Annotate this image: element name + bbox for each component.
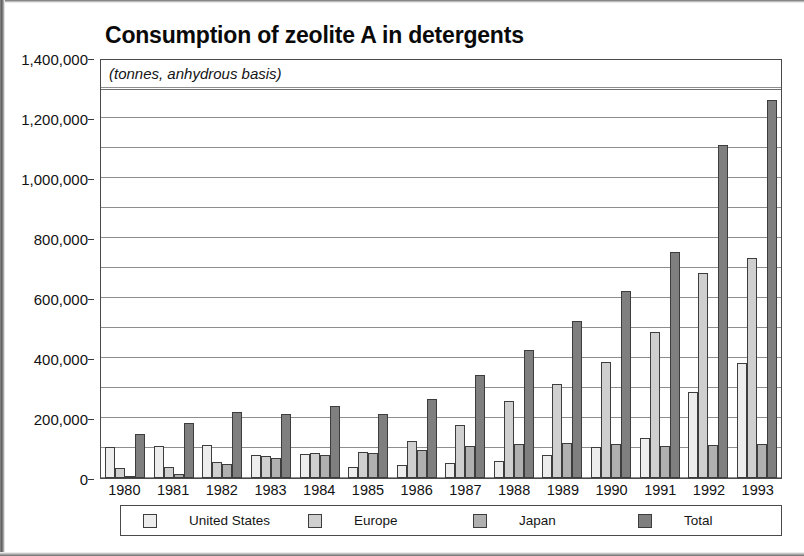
legend-swatch-icon: [308, 514, 322, 528]
bar-total-1986: [427, 399, 437, 478]
bar-europe-1992: [698, 273, 708, 479]
y-axis-tick-label: 800,000: [34, 231, 88, 248]
bar-europe-1989: [552, 384, 562, 479]
bar-japan-1991: [660, 446, 670, 478]
bar-series-container: [101, 60, 781, 478]
y-axis-tick-mark: [88, 419, 94, 420]
bar-total-1984: [330, 406, 340, 478]
subtitle-divider: [101, 89, 781, 90]
bar-japan-1993: [757, 444, 767, 478]
bar-group-1988: [490, 60, 539, 478]
y-axis-tick-label: 600,000: [34, 291, 88, 308]
bar-europe-1986: [407, 441, 417, 479]
bar-japan-1987: [465, 446, 475, 478]
legend-item-united-states[interactable]: United States: [121, 513, 286, 528]
bar-total-1992: [718, 145, 728, 478]
legend-label: Europe: [354, 513, 398, 528]
bar-united-states-1984: [300, 454, 310, 478]
y-axis-tick-mark: [88, 119, 94, 120]
x-axis-tick-label: 1986: [392, 482, 441, 504]
bar-group-1993: [733, 60, 782, 478]
x-axis-tick-label: 1981: [149, 482, 198, 504]
legend-swatch-icon: [473, 514, 487, 528]
bar-total-1993: [767, 100, 777, 478]
y-axis-tick-mark: [88, 359, 94, 360]
bar-united-states-1985: [348, 467, 358, 478]
bar-group-1990: [587, 60, 636, 478]
page-edge-top: [0, 0, 804, 3]
y-axis-tick-label: 0: [80, 471, 88, 488]
bar-united-states-1991: [640, 438, 650, 479]
x-axis-tick-label: 1984: [295, 482, 344, 504]
y-axis: 1,400,0001,200,0001,000,000800,000600,00…: [0, 59, 94, 479]
bar-united-states-1993: [737, 363, 747, 479]
bar-united-states-1990: [591, 447, 601, 478]
y-axis-tick-label: 1,200,000: [21, 111, 88, 128]
legend-label: Japan: [519, 513, 556, 528]
legend-item-total[interactable]: Total: [616, 513, 781, 528]
bar-europe-1983: [261, 456, 271, 478]
x-axis-tick-label: 1988: [490, 482, 539, 504]
legend-swatch-icon: [638, 514, 652, 528]
bar-europe-1981: [164, 467, 174, 478]
legend-label: United States: [189, 513, 270, 528]
bar-japan-1988: [514, 444, 524, 479]
bar-group-1983: [247, 60, 296, 478]
y-axis-tick-mark: [88, 299, 94, 300]
bar-europe-1988: [504, 401, 514, 478]
bar-total-1985: [378, 414, 388, 479]
x-axis-tick-label: 1982: [197, 482, 246, 504]
bar-group-1989: [538, 60, 587, 478]
bar-group-1992: [684, 60, 733, 478]
y-axis-tick-label: 1,400,000: [21, 51, 88, 68]
bar-united-states-1983: [251, 455, 261, 478]
bar-group-1980: [101, 60, 150, 478]
bar-japan-1983: [271, 458, 281, 478]
bar-group-1991: [635, 60, 684, 478]
bar-europe-1993: [747, 258, 757, 479]
y-axis-tick-label: 400,000: [34, 351, 88, 368]
bar-japan-1980: [125, 476, 135, 478]
bar-japan-1990: [611, 444, 621, 478]
x-axis-tick-label: 1990: [587, 482, 636, 504]
bar-japan-1992: [708, 445, 718, 478]
bar-united-states-1992: [688, 392, 698, 478]
y-axis-tick-label: 1,000,000: [21, 171, 88, 188]
bar-europe-1980: [115, 468, 125, 479]
legend-label: Total: [684, 513, 713, 528]
legend-item-europe[interactable]: Europe: [286, 513, 451, 528]
bar-group-1984: [295, 60, 344, 478]
legend-swatch-icon: [143, 514, 157, 528]
bar-group-1982: [198, 60, 247, 478]
x-axis-tick-label: 1985: [344, 482, 393, 504]
bar-total-1982: [232, 412, 242, 478]
chart-legend: United StatesEuropeJapanTotal: [120, 505, 782, 536]
y-axis-tick-mark: [88, 179, 94, 180]
bar-europe-1985: [358, 452, 368, 478]
bar-united-states-1981: [154, 446, 164, 478]
bar-group-1981: [150, 60, 199, 478]
page-edge-bottom: [0, 552, 804, 556]
x-axis: 1980198119821983198419851986198719881989…: [100, 482, 782, 504]
y-axis-tick-mark: [88, 479, 94, 480]
bar-total-1987: [475, 375, 485, 478]
bar-europe-1991: [650, 332, 660, 478]
bar-group-1985: [344, 60, 393, 478]
y-axis-tick-mark: [88, 239, 94, 240]
x-axis-tick-label: 1989: [538, 482, 587, 504]
bar-group-1986: [392, 60, 441, 478]
bar-united-states-1980: [105, 447, 115, 479]
legend-item-japan[interactable]: Japan: [451, 513, 616, 528]
bar-total-1991: [670, 252, 680, 478]
bar-total-1983: [281, 414, 291, 478]
bar-united-states-1989: [542, 455, 552, 478]
y-axis-tick-label: 200,000: [34, 411, 88, 428]
bar-united-states-1982: [202, 445, 212, 478]
bar-total-1981: [184, 423, 194, 478]
bar-europe-1984: [310, 453, 320, 478]
bar-united-states-1988: [494, 461, 504, 478]
bar-japan-1981: [174, 474, 184, 478]
bar-total-1990: [621, 291, 631, 478]
x-axis-tick-label: 1980: [100, 482, 149, 504]
bar-europe-1990: [601, 362, 611, 478]
